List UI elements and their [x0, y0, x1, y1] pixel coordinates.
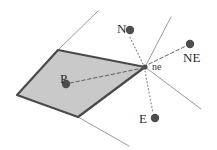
label-E: E: [139, 112, 147, 125]
cell-polygon-group: [17, 50, 145, 117]
NE-dot: [186, 40, 194, 48]
diagram-svg: [0, 0, 217, 150]
ne-vertex: [142, 64, 147, 69]
label-ne: ne: [152, 62, 161, 72]
edge-upper-right: [145, 17, 171, 67]
edge-lower-left: [78, 117, 129, 146]
N-dot: [126, 26, 134, 34]
label-NE: NE: [183, 51, 200, 64]
cell-P: [17, 50, 145, 117]
link-ne-to-E: [145, 71, 153, 113]
link-ne-to-N: [129, 35, 143, 64]
edge-lower-right: [145, 67, 201, 109]
E-dot: [151, 114, 159, 122]
edge-upper-left: [58, 11, 98, 50]
label-P: P: [60, 72, 67, 85]
figure-canvas: PneNNEE: [0, 0, 217, 150]
label-N: N: [117, 22, 126, 35]
